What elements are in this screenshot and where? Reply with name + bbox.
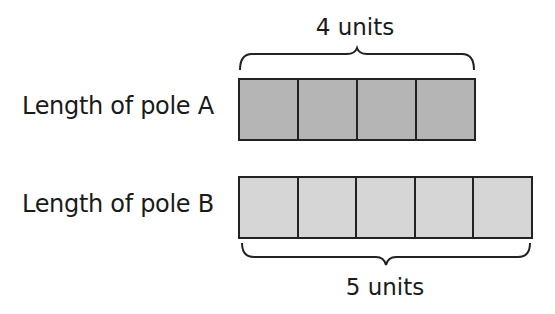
pole-a-bar <box>238 78 476 141</box>
pole-b-unit-cell <box>416 178 475 237</box>
pole-a-top-brace <box>238 48 476 72</box>
pole-b-units-label: 5 units <box>330 274 440 300</box>
pole-b-bottom-brace <box>240 243 532 267</box>
pole-a-unit-cell <box>240 80 299 139</box>
pole-b-unit-cell <box>240 178 299 237</box>
pole-b-unit-cell <box>357 178 416 237</box>
pole-b-unit-cell <box>299 178 358 237</box>
pole-b-unit-cell <box>474 178 531 237</box>
pole-a-unit-cell <box>417 80 474 139</box>
pole-a-label: Length of pole A <box>22 92 214 120</box>
pole-b-bar <box>238 176 533 239</box>
pole-a-unit-cell <box>299 80 358 139</box>
pole-a-unit-cell <box>358 80 417 139</box>
pole-b-label: Length of pole B <box>22 190 214 218</box>
pole-a-units-label: 4 units <box>300 14 410 40</box>
